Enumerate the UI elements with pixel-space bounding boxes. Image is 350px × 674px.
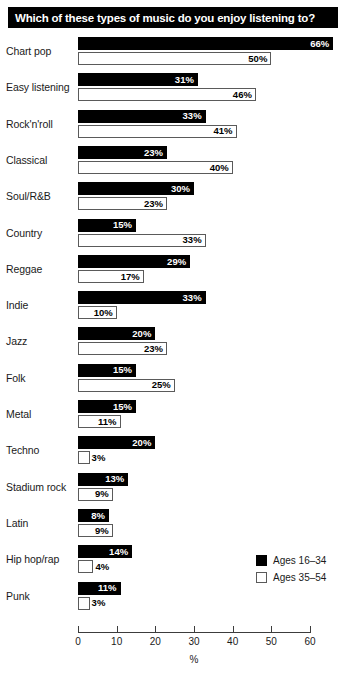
axis-tick-label: 60 [304,636,315,647]
bar-value-label: 46% [233,90,252,100]
category-label: Reggae [6,263,76,275]
bar-value-label: 66% [310,39,329,49]
category-label: Classical [6,154,76,166]
bar-ages-35-54: 9% [78,488,113,501]
chart-row: Metal15%11% [0,399,350,436]
bar-ages-16-34: 15% [78,219,136,232]
bar-value-label: 50% [248,54,267,64]
chart-row: Techno20%3% [0,435,350,472]
bar-ages-16-34: 29% [78,255,190,268]
bar-value-label: 23% [144,148,163,158]
bar-group: 29%17% [78,254,350,291]
bar-value-label: 14% [109,547,128,557]
music-preferences-chart: Which of these types of music do you enj… [0,0,350,674]
bar-value-label: 41% [214,126,233,136]
bar-group: 20%3% [78,435,350,472]
chart-row: Soul/R&B30%23% [0,181,350,218]
bar-value-label: 11% [98,583,117,593]
legend-swatch-black-icon [256,555,267,566]
chart-row: Easy listening31%46% [0,72,350,109]
bar-value-label: 20% [132,438,151,448]
legend-label: Ages 35–54 [273,572,326,583]
category-label: Indie [6,299,76,311]
bar-value-label: 10% [94,308,113,318]
bar-value-label: 23% [144,199,163,209]
bar-ages-16-34: 15% [78,364,136,377]
bar-ages-35-54: 23% [78,197,167,210]
bar-ages-16-34: 33% [78,110,206,123]
bar-value-label: 3% [92,598,106,608]
bar-value-label: 9% [95,489,109,499]
axis-tick [233,626,234,633]
bar-ages-16-34: 14% [78,545,132,558]
chart-row: Latin8%9% [0,508,350,545]
category-label: Soul/R&B [6,190,76,202]
category-label: Folk [6,372,76,384]
bar-group: 15%33% [78,218,350,255]
bar-group: 66%50% [78,36,350,73]
bar-ages-16-34: 11% [78,582,121,595]
bar-value-label: 31% [175,75,194,85]
category-label: Chart pop [6,45,76,57]
chart-row: Indie33%10% [0,290,350,327]
chart-row: Jazz20%23% [0,326,350,363]
page-title: Which of these types of music do you enj… [8,12,315,24]
category-label: Latin [6,517,76,529]
category-label: Hip hop/rap [6,553,76,565]
bar-value-label: 29% [167,257,186,267]
bar-ages-16-34: 15% [78,400,136,413]
bar-group: 23%40% [78,145,350,182]
x-axis: 0102030405060 % [0,622,350,674]
bar-group: 15%25% [78,363,350,400]
chart-row: Country15%33% [0,218,350,255]
bar-value-label: 33% [183,111,202,121]
chart-row: Reggae29%17% [0,254,350,291]
bar-ages-35-54: 23% [78,342,167,355]
bar-value-label: 33% [183,235,202,245]
bar-value-label: 4% [95,562,109,572]
category-label: Stadium rock [6,481,76,493]
bar-ages-35-54: 3% [78,451,90,464]
bar-ages-16-34: 13% [78,473,128,486]
bar-ages-35-54: 41% [78,125,237,138]
category-label: Techno [6,444,76,456]
bar-value-label: 15% [113,402,132,412]
bar-group: 15%11% [78,399,350,436]
bar-ages-35-54: 9% [78,524,113,537]
bar-ages-35-54: 11% [78,415,121,428]
category-label: Rock'n'roll [6,118,76,130]
bar-ages-16-34: 30% [78,182,194,195]
bar-ages-35-54: 17% [78,270,144,283]
legend-label: Ages 16–34 [273,555,326,566]
bar-ages-16-34: 23% [78,146,167,159]
bar-ages-35-54: 50% [78,52,271,65]
bar-ages-16-34: 66% [78,37,333,50]
bar-value-label: 15% [113,220,132,230]
bar-group: 30%23% [78,181,350,218]
category-label: Easy listening [6,81,76,93]
bar-value-label: 33% [183,293,202,303]
bar-ages-35-54: 3% [78,597,90,610]
axis-tick [78,626,79,633]
bar-value-label: 40% [210,163,229,173]
chart-row: Stadium rock13%9% [0,472,350,509]
bar-group: 13%9% [78,472,350,509]
bar-group: 33%41% [78,109,350,146]
category-label: Jazz [6,335,76,347]
bar-value-label: 20% [132,329,151,339]
bar-ages-16-34: 31% [78,73,198,86]
axis-tick [194,626,195,633]
axis-tick [155,626,156,633]
chart-row: Chart pop66%50% [0,36,350,73]
category-label: Country [6,227,76,239]
axis-title: % [190,654,199,665]
bar-ages-35-54: 33% [78,234,206,247]
axis-tick-label: 50 [266,636,277,647]
axis-tick [310,626,311,633]
category-label: Metal [6,408,76,420]
bar-group: 8%9% [78,508,350,545]
bar-ages-16-34: 33% [78,291,206,304]
axis-tick-label: 20 [150,636,161,647]
bar-value-label: 13% [105,474,124,484]
bar-ages-16-34: 8% [78,509,109,522]
